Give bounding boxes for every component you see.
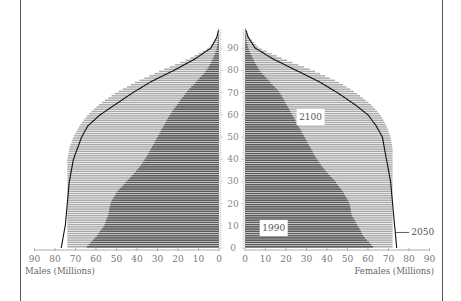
bar-female-1990 bbox=[245, 217, 353, 218]
bar-female-1990 bbox=[245, 197, 346, 198]
bar-female-1990 bbox=[245, 82, 271, 83]
bar-female-1990 bbox=[245, 44, 247, 45]
bar-male-1990 bbox=[93, 239, 219, 240]
bar-male-1990 bbox=[176, 106, 219, 107]
x-tick-label-females: 40 bbox=[321, 254, 333, 264]
bar-female-1990 bbox=[245, 193, 344, 194]
bar-female-1990 bbox=[245, 162, 319, 163]
bar-male-1990 bbox=[153, 144, 219, 145]
x-tick-label-females: 80 bbox=[403, 254, 415, 264]
females-axis-title: Females (Millions) bbox=[354, 266, 434, 276]
bar-male-1990 bbox=[148, 153, 219, 154]
males-bars bbox=[67, 29, 219, 248]
bar-male-1990 bbox=[132, 175, 219, 176]
bar-female-1990 bbox=[245, 202, 349, 203]
bar-female-1990 bbox=[245, 157, 316, 158]
bar-male-1990 bbox=[209, 66, 219, 67]
bar-female-1990 bbox=[245, 155, 315, 156]
x-tick-label-males: 50 bbox=[111, 254, 123, 264]
bar-female-1990 bbox=[245, 55, 252, 56]
bar-female-1990 bbox=[245, 97, 283, 98]
annotation-1990: 1990 bbox=[260, 220, 288, 236]
bar-male-1990 bbox=[210, 64, 219, 65]
bar-female-1990 bbox=[245, 206, 350, 207]
bar-female-1990 bbox=[245, 164, 321, 165]
bar-female-1990 bbox=[245, 128, 300, 129]
bar-female-1990 bbox=[245, 244, 371, 245]
annotation-2050: 2050 bbox=[395, 227, 434, 237]
bar-female-1990 bbox=[245, 173, 328, 174]
bar-female-1990 bbox=[245, 195, 345, 196]
bar-female-1990 bbox=[245, 51, 250, 52]
bar-female-1990 bbox=[245, 57, 253, 58]
bar-male-1990 bbox=[115, 195, 219, 196]
bar-male-1990 bbox=[134, 173, 219, 174]
bar-male-1990 bbox=[139, 166, 219, 167]
bar-female-1990 bbox=[245, 239, 367, 240]
bar-male-1990 bbox=[109, 211, 219, 212]
bar-female-1990 bbox=[245, 37, 246, 38]
bar-female-1990 bbox=[245, 199, 348, 200]
bar-female-1990 bbox=[245, 68, 259, 69]
age-axis: 0102030405060708090 bbox=[220, 20, 245, 253]
bar-female-1990 bbox=[245, 35, 246, 36]
bar-female-1990 bbox=[245, 175, 330, 176]
age-tick-label: 60 bbox=[227, 110, 239, 120]
bar-male-1990 bbox=[202, 75, 219, 76]
bar-male-1990 bbox=[165, 122, 219, 123]
bar-female-1990 bbox=[245, 204, 350, 205]
bar-female-1990 bbox=[245, 215, 352, 216]
bar-male-1990 bbox=[106, 219, 219, 220]
males-axis-title: Males (Millions) bbox=[25, 266, 95, 276]
bar-male-1990 bbox=[102, 228, 219, 229]
bar-female-1990 bbox=[245, 106, 288, 107]
x-tick-label-females: 60 bbox=[362, 254, 374, 264]
bar-male-1990 bbox=[98, 233, 219, 234]
bar-female-1990 bbox=[245, 62, 255, 63]
bar-female-1990 bbox=[245, 66, 258, 67]
age-tick-label: 0 bbox=[230, 243, 236, 253]
bar-female-1990 bbox=[245, 148, 311, 149]
bar-male-1990 bbox=[138, 168, 219, 169]
bar-female-1990 bbox=[245, 80, 269, 81]
x-tick-label-males: 0 bbox=[216, 254, 222, 264]
annotation-2100: 2100 bbox=[297, 109, 325, 125]
bar-female-1990 bbox=[245, 135, 304, 136]
bar-female-1990 bbox=[245, 93, 280, 94]
bar-male-1990 bbox=[218, 37, 219, 38]
bar-male-1990 bbox=[143, 162, 219, 163]
bar-male-1990 bbox=[189, 88, 219, 89]
bar-female-1990 bbox=[245, 144, 309, 145]
bar-female-1990 bbox=[245, 77, 267, 78]
bar-male-1990 bbox=[164, 124, 219, 125]
bar-male-1990 bbox=[216, 51, 219, 52]
bar-male-1990 bbox=[141, 164, 219, 165]
age-tick-label: 20 bbox=[227, 199, 239, 209]
x-tick-label-males: 70 bbox=[70, 254, 82, 264]
x-tick-label-males: 10 bbox=[193, 254, 205, 264]
bar-female-1990 bbox=[245, 86, 275, 87]
females-bars bbox=[245, 29, 393, 248]
bar-male-1990 bbox=[195, 82, 219, 83]
bar-male-1990 bbox=[126, 182, 219, 183]
bar-male-1990 bbox=[110, 206, 219, 207]
bar-male-1990 bbox=[108, 215, 219, 216]
bar-male-1990 bbox=[103, 226, 219, 227]
bar-female-1990 bbox=[245, 120, 295, 121]
x-tick-label-females: 20 bbox=[280, 254, 292, 264]
bar-male-1990 bbox=[152, 146, 219, 147]
bar-male-1990 bbox=[89, 244, 219, 245]
x-tick-label-females: 10 bbox=[260, 254, 272, 264]
bar-male-1990 bbox=[136, 171, 219, 172]
bar-male-1990 bbox=[215, 53, 219, 54]
bar-male-1990 bbox=[214, 55, 219, 56]
bar-female-1990 bbox=[245, 42, 247, 43]
bar-female-1990 bbox=[245, 140, 306, 141]
x-tick-label-males: 80 bbox=[49, 254, 61, 264]
age-tick-label: 50 bbox=[227, 132, 239, 142]
age-tick-label: 30 bbox=[227, 176, 239, 186]
bar-male-1990 bbox=[218, 35, 219, 36]
bar-male-1990 bbox=[162, 128, 219, 129]
x-tick-label-males: 30 bbox=[152, 254, 164, 264]
